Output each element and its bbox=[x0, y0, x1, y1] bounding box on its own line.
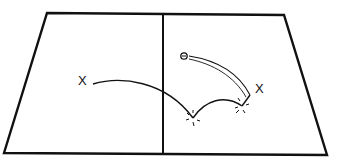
shot-trajectory-2 bbox=[193, 100, 242, 118]
shot-trajectory-1 bbox=[93, 81, 193, 118]
court-diagram bbox=[0, 0, 340, 163]
right-player-marker: X bbox=[255, 82, 264, 95]
court-outline bbox=[4, 13, 327, 155]
left-player-marker: X bbox=[78, 74, 87, 87]
